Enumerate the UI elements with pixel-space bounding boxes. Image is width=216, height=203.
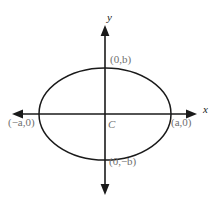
x-axis-label: x [203, 104, 208, 115]
right-vertex-label: (a,0) [171, 117, 191, 128]
y-axis-up-arrow-icon [101, 25, 110, 36]
top-vertex-label: (0,b) [110, 54, 131, 65]
center-label: C [108, 119, 115, 130]
y-axis-label: y [107, 12, 112, 23]
ellipse-diagram-canvas [0, 0, 216, 203]
ellipse-figure: x y (0,b) (a,0) (−a,0) (0,−b) C [0, 0, 216, 203]
bottom-vertex-label: (0,−b) [109, 156, 136, 167]
left-vertex-label: (−a,0) [8, 117, 35, 128]
y-axis-down-arrow-icon [101, 184, 110, 195]
